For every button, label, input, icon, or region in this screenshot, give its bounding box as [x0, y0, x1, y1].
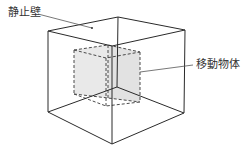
moving-object-label: 移動物体 — [196, 59, 240, 70]
static-wall-label: 静止壁 — [8, 7, 41, 18]
box-diagram — [0, 0, 251, 153]
static-wall-leader-dot — [91, 27, 93, 29]
static-wall-leader — [38, 14, 92, 28]
moving-object-cube — [74, 45, 140, 106]
moving-object-leader — [140, 65, 193, 72]
diagram-stage: 静止壁 移動物体 — [0, 0, 251, 153]
